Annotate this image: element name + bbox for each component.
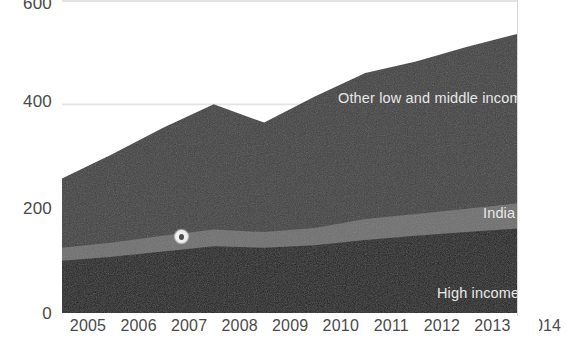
x-tick-2010: 2010	[315, 318, 367, 334]
page-margin	[517, 0, 539, 343]
y-tick-0: 0	[6, 305, 52, 322]
y-tick-600: 600	[6, 0, 52, 12]
plot-right-border	[517, 0, 518, 316]
x-axis: 2005 2006 2007 2008 2009 2010 2011 2012 …	[62, 318, 517, 343]
x-tick-2007: 2007	[163, 318, 215, 334]
x-tick-2005: 2005	[62, 318, 114, 334]
x-tick-2006: 2006	[113, 318, 165, 334]
x-tick-2009: 2009	[264, 318, 316, 334]
y-tick-400: 400	[6, 93, 52, 110]
chart-canvas	[62, 0, 517, 313]
x-tick-2008: 2008	[214, 318, 266, 334]
series-label-other: Other low and middle income	[338, 91, 530, 106]
x-tick-2013: 2013	[466, 318, 518, 334]
y-tick-200: 200	[6, 200, 52, 217]
x-tick-2011: 2011	[365, 318, 417, 334]
series-label-india: India	[483, 206, 515, 221]
pointer-dot-marker[interactable]	[175, 230, 188, 243]
plot-area	[62, 0, 517, 313]
series-label-high-income: High income	[437, 286, 519, 301]
y-axis: 600 400 200 0	[0, 0, 52, 343]
x-tick-2012: 2012	[416, 318, 468, 334]
